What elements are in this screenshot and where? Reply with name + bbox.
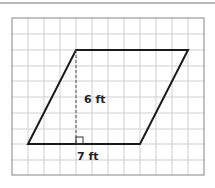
height-label: 6 ft	[84, 93, 106, 106]
grid	[12, 18, 204, 175]
parallelogram-diagram: 6 ft 7 ft	[0, 0, 215, 188]
right-angle-marker	[76, 137, 83, 144]
base-label: 7 ft	[77, 150, 99, 163]
